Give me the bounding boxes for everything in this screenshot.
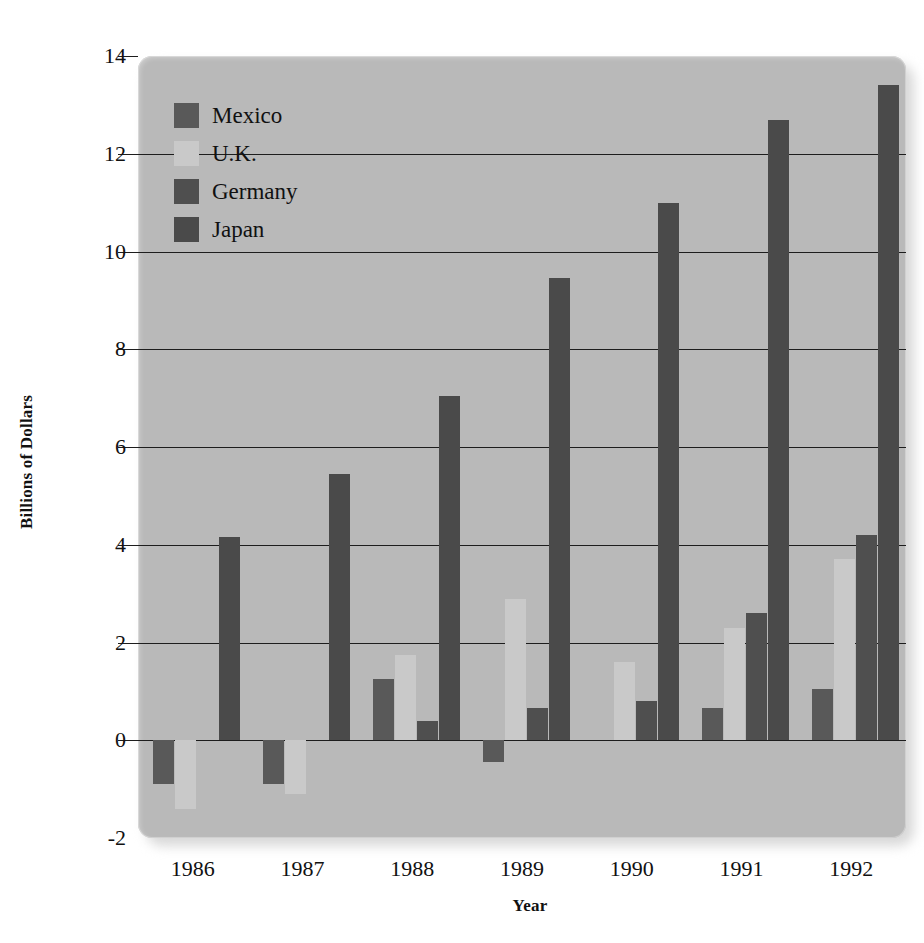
legend-swatch-icon	[174, 141, 199, 166]
legend-swatch-icon	[174, 217, 199, 242]
gridline-10	[138, 252, 906, 253]
x-tick-label-1986: 1986	[138, 856, 248, 882]
bar-japan-1987	[329, 474, 350, 740]
bar-japan-1992	[878, 85, 899, 740]
y-tick-label-10: 10	[78, 239, 126, 265]
legend-label: Japan	[212, 218, 264, 241]
x-tick-label-1991: 1991	[686, 856, 796, 882]
gridline-6	[138, 447, 906, 448]
bar-japan-1988	[439, 396, 460, 741]
legend-item-uk: U.K.	[174, 134, 298, 172]
chart-legend: MexicoU.K.GermanyJapan	[174, 96, 298, 248]
bar-germany-1992	[856, 535, 877, 740]
bar-mexico-1987	[263, 740, 284, 784]
bar-japan-1986	[219, 537, 240, 740]
x-axis-title: Year	[140, 896, 920, 916]
legend-item-mexico: Mexico	[174, 96, 298, 134]
y-tick-label-6: 6	[78, 434, 126, 460]
chart-figure: MexicoU.K.GermanyJapan Billions of Dolla…	[0, 0, 924, 943]
bar-uk-1992	[834, 559, 855, 740]
legend-item-germany: Germany	[174, 172, 298, 210]
y-tick-label-2: 2	[78, 630, 126, 656]
legend-item-japan: Japan	[174, 210, 298, 248]
y-tick-label-14: 14	[78, 43, 126, 69]
x-tick-label-1990: 1990	[577, 856, 687, 882]
bar-uk-1989	[505, 599, 526, 741]
gridline-4	[138, 545, 906, 546]
x-tick-label-1987: 1987	[248, 856, 358, 882]
legend-swatch-icon	[174, 103, 199, 128]
bar-japan-1989	[549, 278, 570, 740]
bar-mexico-1986	[153, 740, 174, 784]
bar-germany-1991	[746, 613, 767, 740]
bar-uk-1988	[395, 655, 416, 741]
bar-uk-1987	[285, 740, 306, 794]
gridline-0	[138, 740, 906, 741]
bar-germany-1988	[417, 721, 438, 741]
bar-japan-1991	[768, 120, 789, 741]
legend-label: Mexico	[212, 104, 282, 127]
x-tick-label-1989: 1989	[467, 856, 577, 882]
y-tick-label--2: -2	[78, 825, 126, 851]
legend-label: Germany	[212, 180, 298, 203]
bar-uk-1986	[175, 740, 196, 808]
bar-germany-1990	[636, 701, 657, 740]
bar-mexico-1992	[812, 689, 833, 740]
bar-germany-1989	[527, 708, 548, 740]
y-tick-label-8: 8	[78, 336, 126, 362]
x-tick-label-1988: 1988	[357, 856, 467, 882]
bar-mexico-1989	[483, 740, 504, 762]
x-tick-label-1992: 1992	[796, 856, 906, 882]
bar-mexico-1988	[373, 679, 394, 740]
bar-japan-1990	[658, 203, 679, 741]
y-tick-label-0: 0	[78, 727, 126, 753]
bar-uk-1990	[614, 662, 635, 740]
legend-swatch-icon	[174, 179, 199, 204]
gridline-8	[138, 349, 906, 350]
legend-label: U.K.	[212, 142, 257, 165]
y-tick-label-4: 4	[78, 532, 126, 558]
bar-uk-1991	[724, 628, 745, 740]
y-axis-title: Billions of Dollars	[17, 362, 37, 562]
bar-mexico-1991	[702, 708, 723, 740]
y-tick-label-12: 12	[78, 141, 126, 167]
